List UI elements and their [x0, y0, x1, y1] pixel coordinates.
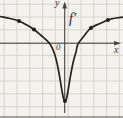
x-axis-label: x: [114, 45, 118, 55]
grid-lines: [0, 0, 123, 118]
marked-points: [17, 18, 110, 103]
function-curve: [0, 17, 123, 102]
plot-canvas: [0, 0, 123, 118]
origin-label: 0: [56, 43, 61, 52]
derivative-graph-figure: y x 0 f′: [0, 0, 123, 118]
scan-edge-shadow: [0, 116, 123, 118]
y-axis-label: y: [55, 0, 59, 8]
function-name-label: f′: [69, 12, 76, 26]
axes: [0, 2, 121, 114]
